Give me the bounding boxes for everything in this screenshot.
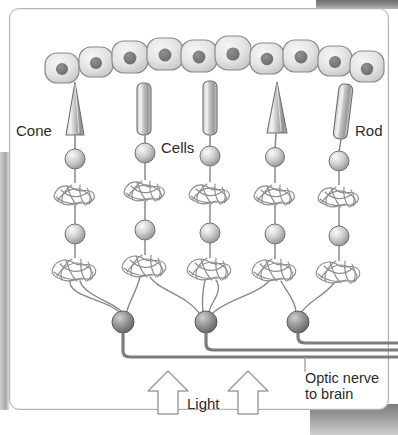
optic-nerve-fibers <box>123 333 398 357</box>
label-optic-nerve: Optic nerveto brain <box>305 370 379 402</box>
photoreceptor-cone <box>267 82 287 149</box>
ganglion-cell-body <box>112 311 134 333</box>
epithelium-cell <box>350 51 384 82</box>
bipolar-cell-body <box>135 143 155 163</box>
epithelium-cell <box>250 43 284 74</box>
light-arrow <box>148 371 188 414</box>
bipolar-cell-body <box>65 149 85 169</box>
photoreceptor-cone <box>66 82 84 150</box>
diagram-canvas: Cone Rod Cells Light Optic nerveto brain <box>0 0 398 435</box>
bipolar-axons <box>75 163 339 185</box>
photoreceptor-rod <box>203 81 217 148</box>
label-light: Light <box>187 396 220 413</box>
light-arrow <box>228 371 268 414</box>
interneuron-cell-body <box>200 223 220 243</box>
epithelium-cell <box>318 46 352 76</box>
synaptic-tangle <box>54 181 358 207</box>
interneuron-cell-body <box>135 220 155 240</box>
synaptic-tangle <box>52 255 360 283</box>
interneuron-cell-body <box>65 224 85 244</box>
photoreceptor-rod <box>137 83 151 150</box>
label-rod: Rod <box>355 123 383 140</box>
epithelium-cell <box>181 40 217 72</box>
optic-nerve-line-2: to brain <box>305 386 353 402</box>
bipolar-cell-body <box>200 146 220 166</box>
optic-nerve-line-1: Optic nerve <box>305 370 379 386</box>
epithelium-cell <box>112 41 148 73</box>
bipolar-cell-body <box>329 151 349 171</box>
epithelium-cell <box>215 36 251 70</box>
epithelium-cell <box>45 53 79 83</box>
ganglion-dendrites <box>70 277 334 313</box>
photoreceptor-rod <box>333 83 354 152</box>
label-cone: Cone <box>16 123 52 140</box>
interneuron-cell-body <box>329 226 349 246</box>
epithelium-cell <box>283 40 319 72</box>
interneuron-axons <box>75 201 339 226</box>
ganglion-cell-body <box>195 311 217 333</box>
epithelium-cell <box>147 38 183 70</box>
bipolar-cell-body <box>266 148 285 167</box>
label-cells: Cells <box>161 140 194 157</box>
ganglion-cell-body <box>287 311 309 333</box>
epithelium-cell <box>79 47 113 77</box>
interneuron-cell-body <box>265 224 285 244</box>
pigment-epithelium-row <box>45 36 384 83</box>
